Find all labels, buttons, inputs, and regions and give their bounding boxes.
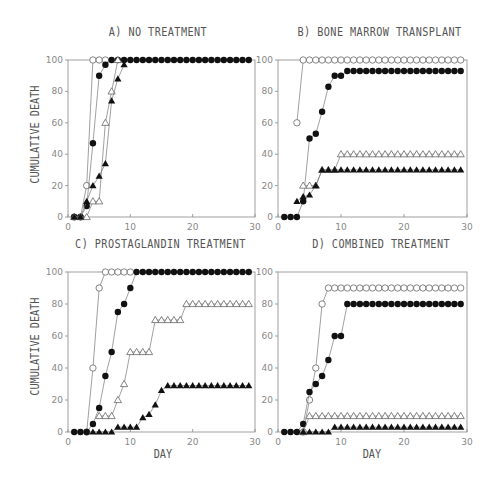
open-triangle-marker bbox=[407, 412, 414, 418]
filled-triangle-marker bbox=[239, 382, 246, 388]
x-tick-label: 10 bbox=[335, 437, 347, 447]
filled-triangle-marker bbox=[438, 166, 445, 172]
open-triangle-marker bbox=[356, 412, 363, 418]
y-tick-label: 80 bbox=[52, 299, 64, 309]
panel-a: 0204060801000102030 bbox=[46, 55, 261, 232]
open-triangle-marker bbox=[426, 151, 433, 157]
filled-triangle-marker bbox=[413, 424, 420, 430]
filled-triangle-marker bbox=[344, 166, 351, 172]
filled-triangle-marker bbox=[89, 182, 96, 188]
series-open-triangle bbox=[96, 300, 253, 418]
panel-b: 0204060801000102030 bbox=[256, 55, 473, 232]
open-triangle-marker bbox=[319, 412, 326, 418]
open-triangle-marker bbox=[394, 151, 401, 157]
filled-triangle-marker bbox=[306, 428, 313, 434]
y-tick-label: 20 bbox=[262, 181, 274, 191]
filled-triangle-marker bbox=[319, 428, 326, 434]
open-triangle-marker bbox=[133, 348, 140, 354]
open-circle-marker bbox=[121, 269, 127, 275]
open-circle-marker bbox=[445, 57, 451, 63]
x-tick-label: 0 bbox=[275, 222, 281, 232]
y-tick-label: 20 bbox=[262, 395, 274, 405]
filled-circle-marker bbox=[458, 68, 464, 74]
open-circle-marker bbox=[96, 57, 102, 63]
open-triangle-marker bbox=[239, 300, 246, 306]
filled-circle-marker bbox=[432, 68, 438, 74]
y-tick-label: 100 bbox=[46, 55, 63, 65]
open-triangle-marker bbox=[382, 412, 389, 418]
open-triangle-marker bbox=[369, 151, 376, 157]
filled-circle-marker bbox=[306, 135, 312, 141]
filled-triangle-marker bbox=[164, 382, 171, 388]
filled-circle-marker bbox=[413, 68, 419, 74]
filled-triangle-marker bbox=[344, 424, 351, 430]
open-triangle-marker bbox=[344, 151, 351, 157]
filled-circle-marker bbox=[451, 301, 457, 307]
filled-triangle-marker bbox=[445, 424, 452, 430]
filled-circle-marker bbox=[115, 309, 121, 315]
filled-circle-marker bbox=[294, 429, 300, 435]
filled-circle-marker bbox=[344, 68, 350, 74]
filled-triangle-marker bbox=[331, 166, 338, 172]
filled-circle-marker bbox=[287, 214, 293, 220]
y-tick-label: 0 bbox=[267, 427, 273, 437]
y-tick-label: 20 bbox=[52, 181, 64, 191]
open-triangle-marker bbox=[96, 412, 103, 418]
filled-circle-marker bbox=[171, 269, 177, 275]
filled-circle-marker bbox=[338, 73, 344, 79]
filled-circle-marker bbox=[221, 57, 227, 63]
open-triangle-marker bbox=[96, 198, 103, 204]
filled-circle-marker bbox=[363, 68, 369, 74]
filled-triangle-marker bbox=[438, 424, 445, 430]
filled-triangle-marker bbox=[350, 424, 357, 430]
filled-circle-marker bbox=[165, 269, 171, 275]
filled-triangle-marker bbox=[158, 387, 165, 393]
filled-circle-marker bbox=[357, 68, 363, 74]
filled-circle-marker bbox=[146, 57, 152, 63]
plot-area: 0204060801000102030020406080100010203002… bbox=[0, 0, 494, 482]
open-circle-marker bbox=[344, 57, 350, 63]
open-triangle-marker bbox=[306, 182, 313, 188]
filled-circle-marker bbox=[458, 301, 464, 307]
y-tick-label: 100 bbox=[46, 267, 63, 277]
open-circle-marker bbox=[388, 57, 394, 63]
open-triangle-marker bbox=[388, 412, 395, 418]
open-triangle-marker bbox=[369, 412, 376, 418]
filled-circle-marker bbox=[420, 68, 426, 74]
filled-triangle-marker bbox=[337, 166, 344, 172]
x-tick-label: 0 bbox=[275, 437, 281, 447]
filled-circle-marker bbox=[196, 269, 202, 275]
open-triangle-marker bbox=[152, 316, 159, 322]
filled-circle-marker bbox=[325, 357, 331, 363]
open-circle-marker bbox=[313, 57, 319, 63]
y-tick-label: 80 bbox=[52, 86, 64, 96]
filled-circle-marker bbox=[445, 68, 451, 74]
open-circle-marker bbox=[300, 57, 306, 63]
figure: A) NO TREATMENT B) BONE MARROW TRANSPLAN… bbox=[0, 0, 494, 482]
open-circle-marker bbox=[426, 57, 432, 63]
filled-circle-marker bbox=[71, 429, 77, 435]
open-circle-marker bbox=[458, 57, 464, 63]
series-open-circle bbox=[300, 285, 464, 435]
open-circle-marker bbox=[445, 285, 451, 291]
open-triangle-marker bbox=[145, 348, 152, 354]
filled-triangle-marker bbox=[445, 166, 452, 172]
open-circle-marker bbox=[439, 285, 445, 291]
series-filled-triangle bbox=[300, 424, 465, 435]
open-triangle-marker bbox=[451, 412, 458, 418]
panel-c: 0204060801000102030 bbox=[46, 267, 261, 447]
filled-triangle-marker bbox=[432, 424, 439, 430]
open-circle-marker bbox=[426, 285, 432, 291]
open-circle-marker bbox=[338, 285, 344, 291]
open-triangle-marker bbox=[331, 412, 338, 418]
filled-triangle-marker bbox=[233, 382, 240, 388]
filled-circle-marker bbox=[227, 57, 233, 63]
filled-circle-marker bbox=[413, 301, 419, 307]
filled-triangle-marker bbox=[152, 401, 159, 407]
open-circle-marker bbox=[325, 57, 331, 63]
filled-triangle-marker bbox=[375, 166, 382, 172]
filled-triangle-marker bbox=[214, 382, 221, 388]
x-tick-label: 30 bbox=[249, 437, 261, 447]
filled-circle-marker bbox=[121, 301, 127, 307]
y-tick-label: 40 bbox=[262, 149, 274, 159]
